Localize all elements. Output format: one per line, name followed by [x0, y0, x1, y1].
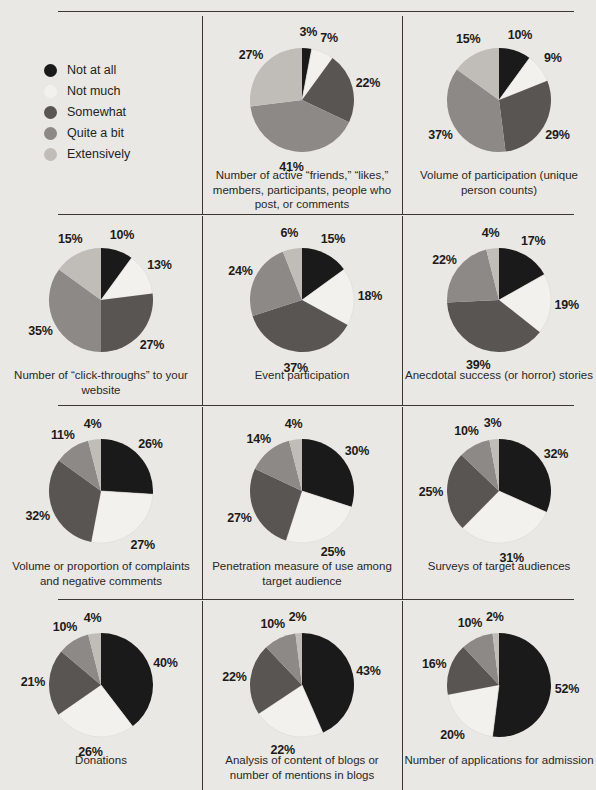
- slice-percent-label: 4%: [285, 417, 303, 431]
- slice-percent-label: 22%: [356, 76, 380, 90]
- pie-chart-graphic: [445, 631, 553, 739]
- legend-item: Quite a bit: [44, 123, 194, 144]
- slice-percent-label: 3%: [300, 25, 318, 39]
- slice-percent-label: 35%: [28, 324, 52, 338]
- slice-percent-label: 17%: [521, 234, 545, 248]
- pie-wrap: [47, 631, 155, 739]
- pie-chart-graphic: [47, 631, 155, 739]
- legend-item-label: Quite a bit: [67, 127, 124, 140]
- slice-percent-label: 16%: [422, 657, 446, 671]
- pie-wrap: [248, 631, 356, 739]
- slice-percent-label: 32%: [26, 509, 50, 523]
- slice-percent-label: 43%: [356, 664, 380, 678]
- legend-swatch-icon: [44, 64, 57, 77]
- chart-cell: 10%9%29%37%15%Volume of participation (u…: [402, 16, 596, 214]
- pie-block: 26%27%32%11%4%: [3, 407, 199, 557]
- slice-percent-label: 14%: [246, 432, 270, 446]
- slice-percent-label: 9%: [544, 51, 562, 65]
- slice-percent-label: 10%: [454, 424, 478, 438]
- slice-percent-label: 2%: [486, 610, 504, 624]
- pie-block: 10%9%29%37%15%: [401, 16, 596, 166]
- slice-percent-label: 22%: [432, 253, 456, 267]
- slice-percent-label: 15%: [58, 232, 82, 246]
- slice-percent-label: 15%: [456, 32, 480, 46]
- pie-block: 52%20%16%10%2%: [401, 601, 596, 751]
- legend-item: Not at all: [44, 60, 194, 81]
- pie-wrap: [47, 437, 155, 545]
- slice-percent-label: 19%: [555, 298, 579, 312]
- slice-percent-label: 20%: [440, 728, 464, 742]
- chart-cell: 3%7%22%41%27%Number of active “friends,”…: [202, 16, 402, 214]
- slice-percent-label: 2%: [289, 610, 307, 624]
- legend-item-label: Not much: [67, 85, 121, 98]
- legend-item: Not much: [44, 81, 194, 102]
- slice-percent-label: 30%: [345, 444, 369, 458]
- slice-percent-label: 27%: [227, 511, 251, 525]
- chart-caption: Number of active “friends,” “likes,” mem…: [207, 168, 397, 212]
- pie-block: 32%31%25%10%3%: [401, 407, 596, 557]
- slice-percent-label: 10%: [458, 616, 482, 630]
- slice-percent-label: 25%: [419, 485, 443, 499]
- legend-swatch-icon: [44, 106, 57, 119]
- slice-percent-label: 4%: [84, 611, 102, 625]
- pie-chart-graphic: [445, 437, 553, 545]
- chart-caption: Number of applications for admission: [404, 753, 594, 768]
- slice-percent-label: 10%: [508, 28, 532, 42]
- pie-block: 3%7%22%41%27%: [204, 16, 400, 166]
- legend-item-label: Somewhat: [67, 106, 126, 119]
- chart-cell: 10%13%27%35%15%Number of “click-throughs…: [0, 216, 202, 405]
- legend-item: Extensively: [44, 144, 194, 165]
- chart-cell: 30%25%27%14%4%Penetration measure of use…: [202, 407, 402, 599]
- slice-percent-label: 22%: [222, 670, 246, 684]
- pie-block: 40%26%21%10%4%: [3, 601, 199, 751]
- pie-wrap: [445, 46, 553, 154]
- column-divider-rule: [202, 407, 203, 599]
- pie-wrap: [248, 437, 356, 545]
- pie-chart-graphic: [248, 46, 356, 154]
- slice-percent-label: 37%: [283, 361, 307, 375]
- slice-percent-label: 22%: [271, 743, 295, 757]
- slice-percent-label: 39%: [466, 358, 490, 372]
- pie-chart-graphic: [248, 246, 356, 354]
- slice-percent-label: 52%: [555, 682, 579, 696]
- slice-percent-label: 10%: [261, 617, 285, 631]
- pie-chart-grid-page: 3%7%22%41%27%Number of active “friends,”…: [0, 0, 596, 790]
- slice-percent-label: 4%: [84, 417, 102, 431]
- legend-swatch-icon: [44, 85, 57, 98]
- slice-percent-label: 40%: [153, 656, 177, 670]
- pie-chart-graphic: [445, 46, 553, 154]
- chart-cell: 32%31%25%10%3%Surveys of target audience…: [402, 407, 596, 599]
- chart-caption: Number of “click-throughs” to your websi…: [6, 368, 196, 397]
- column-divider-rule: [202, 216, 203, 405]
- pie-wrap: [248, 246, 356, 354]
- slice-percent-label: 37%: [428, 128, 452, 142]
- slice-percent-label: 29%: [545, 128, 569, 142]
- slice-percent-label: 27%: [140, 338, 164, 352]
- pie-block: 43%22%22%10%2%: [204, 601, 400, 751]
- chart-cell: 40%26%21%10%4%Donations: [0, 601, 202, 790]
- slice-percent-label: 7%: [320, 31, 338, 45]
- pie-chart-graphic: [47, 437, 155, 545]
- slice-percent-label: 25%: [321, 545, 345, 559]
- chart-caption: Penetration measure of use among target …: [207, 559, 397, 588]
- chart-cell: 43%22%22%10%2%Analysis of content of blo…: [202, 601, 402, 790]
- legend-item-label: Not at all: [67, 64, 116, 77]
- chart-caption: Volume of participation (unique person c…: [404, 168, 594, 197]
- chart-cell: 26%27%32%11%4%Volume or proportion of co…: [0, 407, 202, 599]
- chart-caption: Anecdotal success (or horror) stories: [404, 368, 594, 383]
- legend-swatch-icon: [44, 148, 57, 161]
- slice-percent-label: 27%: [130, 538, 154, 552]
- legend-swatch-icon: [44, 127, 57, 140]
- slice-percent-label: 26%: [78, 745, 102, 759]
- slice-percent-label: 10%: [110, 228, 134, 242]
- chart-cell: 15%18%37%24%6%Event participation: [202, 216, 402, 405]
- pie-slice: [91, 491, 153, 543]
- pie-chart-graphic: [445, 246, 553, 354]
- slice-percent-label: 41%: [279, 160, 303, 174]
- pie-wrap: [445, 246, 553, 354]
- pie-wrap: [248, 46, 356, 154]
- slice-percent-label: 27%: [239, 48, 263, 62]
- pie-block: 17%19%39%22%4%: [401, 216, 596, 366]
- slice-percent-label: 32%: [544, 447, 568, 461]
- chart-cell: 17%19%39%22%4%Anecdotal success (or horr…: [402, 216, 596, 405]
